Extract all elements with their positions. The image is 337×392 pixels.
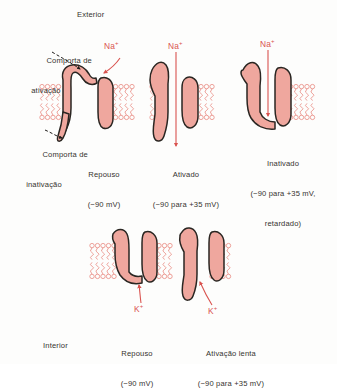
potassium-channel-slow-activation (180, 228, 224, 300)
sodium-channel-activated (150, 62, 198, 141)
potassium-ion-label-slow-activation: K+ (208, 305, 218, 316)
caption-line: Inativado (231, 159, 335, 169)
sodium-channel-inactivated (241, 63, 291, 130)
caption-sodium-inactivated: Inativado (−90 para +35 mV, retardado) (231, 139, 335, 249)
caption-potassium-slow-activation: Ativação lenta (−90 para +35 mV) (178, 329, 284, 392)
interior-label: Interior (43, 341, 68, 351)
caption-line: (−90 para +35 mV, (231, 189, 335, 199)
sodium-flow-arrow-resting (104, 58, 120, 73)
caption-line: Ativado (134, 170, 238, 180)
caption-line: Repouso (68, 170, 140, 180)
caption-line: Repouso (101, 349, 173, 359)
activation-gate-label-line1: Comporta de (0, 56, 92, 66)
sodium-ion-label-resting: Na+ (104, 40, 119, 51)
caption-sodium-resting: Repouso (−90 mV) (68, 150, 140, 230)
caption-line: (−90 para +35 mV) (178, 379, 284, 389)
sodium-ion-label-activated: Na+ (168, 40, 183, 51)
potassium-flow-arrow-slow-activation (200, 282, 212, 305)
caption-sodium-activated: Ativado (−90 para +35 mV) (134, 150, 238, 230)
activation-gate-label: Comporta de ativação (0, 36, 92, 116)
caption-line: (−90 mV) (68, 200, 140, 210)
potassium-ion-label-resting: K+ (134, 303, 144, 314)
activation-gate-label-line2: ativação (0, 86, 92, 96)
sodium-ion-label-inactivated: Na+ (260, 38, 275, 49)
potassium-flow-arrow-resting (139, 285, 141, 303)
caption-potassium-resting: Repouso (−90 mV) (101, 329, 173, 392)
caption-line: (−90 mV) (101, 379, 173, 389)
exterior-label: Exterior (77, 10, 104, 20)
caption-line: Ativação lenta (178, 349, 284, 359)
potassium-channel-resting (113, 230, 157, 284)
caption-line: retardado) (231, 219, 335, 229)
caption-line: (−90 para +35 mV) (134, 200, 238, 210)
